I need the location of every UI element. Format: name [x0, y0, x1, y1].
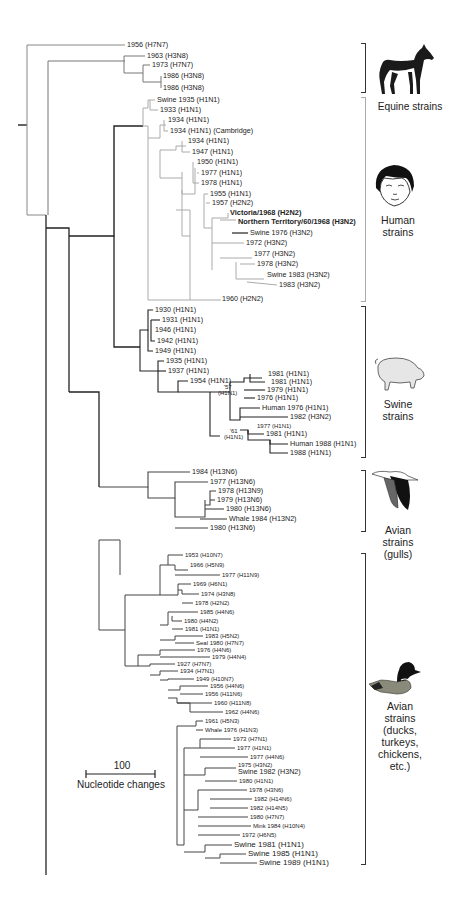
duck-icon [367, 658, 425, 698]
horse-icon [372, 42, 436, 98]
leaf-label: Swine 1982 (H3N2) [238, 768, 301, 776]
leaf-label: Swine 1935 (H1N1) [157, 96, 220, 104]
leaf-label: 1962 (H4N6) [225, 708, 259, 716]
leaf-label: 1972 (H3N2) [246, 239, 287, 247]
gull-icon [368, 466, 428, 514]
leaf-label: 1980 (H7N7) [250, 813, 284, 821]
leaf-label: 1977 (H11N9) [222, 571, 259, 579]
leaf-label: 1981 (H1N1) [266, 430, 307, 438]
leaf-label: 1966 (H5N9) [190, 561, 224, 569]
gull-bracket [361, 470, 366, 532]
leaf-label: 1946 (H1N1) [155, 326, 196, 334]
leaf-label: 1982 (H3N2) [290, 413, 331, 421]
pig-icon [372, 354, 426, 394]
leaf-label: 1956 (H7N7) [127, 41, 168, 49]
leaf-label: 1969 (H6N1) [193, 580, 227, 588]
leaf-label: 1978 (H2N2) [195, 599, 229, 607]
leaf-label: 1963 (H3N8) [147, 52, 188, 60]
leaf-label: 1960 (H2N2) [222, 295, 263, 303]
leaf-label: 1930 (H1N1) [155, 306, 196, 314]
leaf-label: 1977 (H4N6) [250, 753, 284, 761]
leaf-label: Swine 1985 (H1N1) [248, 850, 318, 858]
human-label: Human strains [370, 214, 426, 238]
scale-label: Nucleotide changes [66, 779, 176, 790]
leaf-label: Swine 1989 (H1N1) [259, 859, 329, 867]
leaf-label: 1972 (H6N5) [242, 831, 276, 839]
leaf-label: 1953 (H10N7) [185, 551, 223, 559]
leaf-label: 1935 (H1N1) [166, 357, 207, 365]
equine-label: Equine strains [370, 101, 449, 113]
gull-label: Avian strains (gulls) [370, 524, 426, 560]
leaf-label: 1980 (H1N1) [239, 777, 273, 785]
leaf-label: 1983 (H3N2) [279, 281, 320, 289]
avian-bracket [361, 553, 366, 865]
leaf-label: 1973 (H7N1) [233, 735, 267, 743]
leaf-label: 1986 (H3N8) [163, 84, 204, 92]
leaf-label: 1950 (H1N1) [197, 158, 238, 166]
leaf-label: Whale 1984 (H13N2) [229, 515, 297, 523]
leaf-label: 1978 (H3N2) [257, 260, 298, 268]
leaf-label: 1933 (H1N1) [160, 106, 201, 114]
leaf-label: 1980 (H13N6) [226, 505, 271, 513]
child-face-icon [372, 162, 418, 208]
leaf-label: 1956 (H11N6) [205, 690, 242, 698]
leaf-label: 1947 (H1N1) [192, 148, 233, 156]
leaf-label: 1979 (H4N4) [212, 653, 246, 661]
leaf-label: '57 (H1N1) [218, 384, 237, 396]
leaf-label: 1949 (H1N1) [155, 347, 196, 355]
leaf-label: Whale 1976 (H1N3) [205, 726, 258, 734]
leaf-label: 1986 (H3N8) [163, 72, 204, 80]
leaf-label: 1977 (H13N6) [210, 478, 255, 486]
leaf-label: Swine 1983 (H3N2) [267, 271, 330, 279]
leaf-label: Mink 1984 (H10N4) [253, 822, 305, 830]
leaf-label: 1956 (H4N6) [210, 682, 244, 690]
leaf-label: 1937 (H1N1) [168, 367, 209, 375]
leaf-label: 1960 (H11N8) [214, 699, 251, 707]
leaf-label: Human 1988 (H1N1) [290, 440, 356, 448]
leaf-label: 1973 (H7N7) [152, 61, 193, 69]
leaf-label: Swine 1976 (H3N2) [250, 229, 313, 237]
leaf-label: 1978 (H1N1) [201, 179, 242, 187]
leaf-label: 1980 (H13N6) [210, 524, 255, 532]
leaf-label: 1976 (H1N1) [257, 394, 298, 402]
leaf-label: 1931 (H1N1) [162, 316, 203, 324]
human-bracket [361, 97, 366, 302]
leaf-label: Northern Territory/60/1968 (H3N2) [238, 218, 356, 226]
leaf-label: 1942 (H1N1) [157, 337, 198, 345]
leaf-label: 1982 (H14N6) [254, 795, 292, 803]
leaf-label: 1934 (H1N1) (Cambridge) [170, 127, 253, 135]
scale-bar [86, 770, 155, 778]
leaf-label: 1955 (H1N1) [210, 190, 251, 198]
swine-label: Swine strains [370, 398, 426, 422]
leaf-label: 1934 (H1N1) [168, 116, 209, 124]
leaf-label: 1979 (H13N6) [217, 496, 262, 504]
leaf-label: Victoria/1968 (H2N2) [230, 209, 301, 217]
leaf-label: Human 1976 (H1N1) [262, 404, 328, 412]
leaf-label: 1984 (H13N6) [192, 468, 237, 476]
leaf-label: 1985 (H4N6) [200, 608, 234, 616]
leaf-label: 1978 (H3N6) [249, 786, 283, 794]
leaf-label: 1961 (H5N3) [205, 717, 239, 725]
avian-label: Avian strains (ducks, turkeys, chickens,… [368, 700, 432, 772]
leaf-label: 1977 (H3N2) [254, 250, 295, 258]
leaf-label: 1957 (H2N2) [212, 199, 253, 207]
scale-value: 100 [100, 760, 144, 771]
leaf-label: 1934 (H7N1) [180, 667, 214, 675]
swine-bracket [361, 306, 366, 458]
leaf-label: 1977 (H1N1) [201, 169, 242, 177]
leaf-label: 1974 (H3N8) [201, 590, 235, 598]
leaf-label: 1978 (H13N9) [218, 487, 263, 495]
leaf-label: 1977 (H1N1) [237, 744, 271, 752]
leaf-label: 1980 (H4N2) [184, 617, 218, 625]
equine-bracket [361, 43, 366, 93]
leaf-label: Swine 1981 (H1N1) [234, 841, 304, 849]
leaf-label: 1934 (H1N1) [188, 137, 229, 145]
leaf-label: 1988 (H1N1) [290, 449, 331, 457]
leaf-label: '61 (H1N1) [224, 428, 243, 440]
leaf-label: 1982 (H14N5) [250, 804, 288, 812]
